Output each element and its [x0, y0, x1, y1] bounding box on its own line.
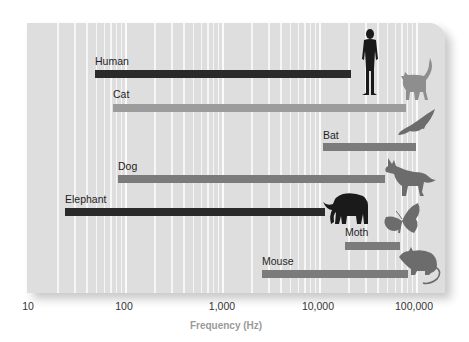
- gridline: [319, 23, 321, 293]
- x-tick-10000: 10,000: [302, 300, 334, 312]
- gridline: [193, 23, 195, 293]
- gridline: [171, 23, 173, 293]
- gridline: [154, 23, 156, 293]
- bar-elephant: [65, 208, 325, 216]
- chart-panel: Human Cat Bat Dog Elephant: [27, 23, 445, 293]
- label-elephant: Elephant: [65, 193, 106, 205]
- bar-human: [95, 70, 351, 78]
- label-cat: Cat: [113, 88, 129, 100]
- gridline: [201, 23, 203, 293]
- gridline: [183, 23, 185, 293]
- gridline: [268, 23, 270, 293]
- gridline: [74, 23, 76, 293]
- label-moth: Moth: [345, 226, 368, 238]
- gridline: [222, 23, 224, 293]
- cat-icon: [400, 58, 436, 102]
- x-tick-100: 100: [115, 300, 133, 312]
- mouse-icon: [399, 247, 443, 285]
- gridline: [218, 23, 220, 293]
- x-tick-100000: 100,000: [395, 300, 433, 312]
- gridline: [86, 23, 88, 293]
- gridline: [304, 23, 306, 293]
- gridline: [310, 23, 312, 293]
- gridline: [280, 23, 282, 293]
- label-human: Human: [95, 55, 129, 67]
- gridline: [213, 23, 215, 293]
- human-icon: [358, 29, 382, 97]
- label-bat: Bat: [323, 129, 339, 141]
- x-axis-title: Frequency (Hz): [190, 320, 262, 331]
- gridline: [57, 23, 59, 293]
- gridline: [315, 23, 317, 293]
- x-tick-1000: 1,000: [209, 300, 235, 312]
- bar-bat: [323, 143, 416, 151]
- x-tick-10: 10: [22, 300, 34, 312]
- gridline: [298, 23, 300, 293]
- bar-dog: [118, 175, 385, 183]
- gridline: [207, 23, 209, 293]
- bar-mouse: [262, 270, 408, 278]
- bar-cat: [113, 104, 406, 112]
- elephant-icon: [323, 192, 371, 226]
- dog-icon: [384, 158, 436, 198]
- bat-icon: [398, 109, 436, 137]
- moth-icon: [382, 203, 422, 237]
- gridline: [348, 23, 350, 293]
- label-dog: Dog: [118, 160, 137, 172]
- gridline: [251, 23, 253, 293]
- bar-moth: [345, 242, 400, 250]
- label-mouse: Mouse: [262, 255, 294, 267]
- gridline: [290, 23, 292, 293]
